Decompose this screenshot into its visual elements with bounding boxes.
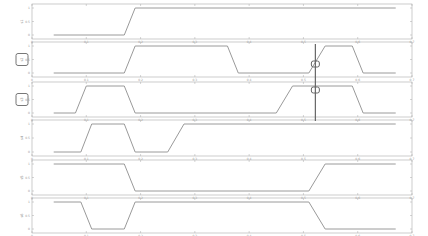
x-tick-label: 0.1: [84, 234, 89, 236]
x-tick-label: 0: [31, 78, 33, 82]
subplot-5: 00.10.20.30.40.50.60.700.51s5: [20, 160, 414, 200]
x-tick-label: 0.3: [192, 78, 197, 82]
x-tick-label: 0: [31, 234, 33, 236]
y-tick-label: 1: [28, 200, 30, 204]
y-tick-label: 1: [28, 44, 30, 48]
x-tick-label: 0.3: [192, 234, 197, 236]
signal-line: [54, 46, 396, 73]
x-tick-label: 0.6: [355, 234, 360, 236]
x-tick-label: 0.2: [138, 234, 143, 236]
x-tick-label: 0.4: [247, 78, 252, 82]
axes-frame: [32, 4, 412, 39]
signal-line: [54, 124, 396, 152]
subplot-3: 00.10.20.30.40.50.60.700.51s3: [16, 82, 414, 122]
x-tick-label: 0.6: [355, 78, 360, 82]
axes-frame: [32, 120, 412, 156]
x-tick-label: 0.7: [410, 78, 415, 82]
y-axis-label: s3: [20, 97, 24, 101]
y-tick-label: 1: [28, 6, 30, 10]
x-tick-label: 0.5: [301, 234, 306, 236]
y-tick-label: 0: [28, 189, 30, 193]
y-axis-label: s4: [20, 135, 24, 140]
subplot-2: 00.10.20.30.40.50.60.700.51s2: [16, 42, 414, 82]
y-tick-label: 0.5: [25, 136, 30, 140]
multi-panel-line-chart: 00.10.20.30.40.50.60.700.51s100.10.20.30…: [0, 0, 428, 236]
axes-frame: [32, 198, 412, 233]
y-tick-label: 0: [28, 111, 30, 115]
signal-line: [54, 86, 396, 113]
y-tick-label: 0: [28, 150, 30, 154]
y-axis-label: s5: [20, 175, 24, 179]
x-tick-label: 0.4: [247, 234, 252, 236]
y-tick-label: 0: [28, 71, 30, 75]
y-axis-label: s1: [20, 19, 24, 23]
axes-frame: [32, 82, 412, 117]
y-tick-label: 1: [28, 162, 30, 166]
x-tick-label: 0.1: [84, 78, 89, 82]
y-tick-label: 0.5: [25, 176, 30, 180]
y-axis-label: s2: [20, 57, 24, 61]
axes-frame: [32, 42, 412, 77]
y-tick-label: 0.5: [25, 20, 30, 24]
signal-line: [54, 202, 396, 229]
y-tick-label: 0: [28, 33, 30, 37]
y-axis-label: s6: [20, 213, 24, 217]
signal-line: [54, 8, 396, 35]
x-tick-label: 0.2: [138, 78, 143, 82]
subplot-6: 00.10.20.30.40.50.60.700.51s6: [20, 198, 414, 236]
y-tick-label: 0.5: [25, 214, 30, 218]
subplot-4: 00.10.20.30.40.50.60.700.51s4: [20, 120, 414, 161]
y-tick-label: 1: [28, 84, 30, 88]
subplot-1: 00.10.20.30.40.50.60.700.51s1: [20, 4, 414, 44]
signal-line: [54, 164, 396, 191]
axes-frame: [32, 160, 412, 195]
y-tick-label: 0: [28, 227, 30, 231]
x-tick-label: 0.7: [410, 234, 415, 236]
x-tick-label: 0.5: [301, 78, 306, 82]
y-tick-label: 1: [28, 122, 30, 126]
